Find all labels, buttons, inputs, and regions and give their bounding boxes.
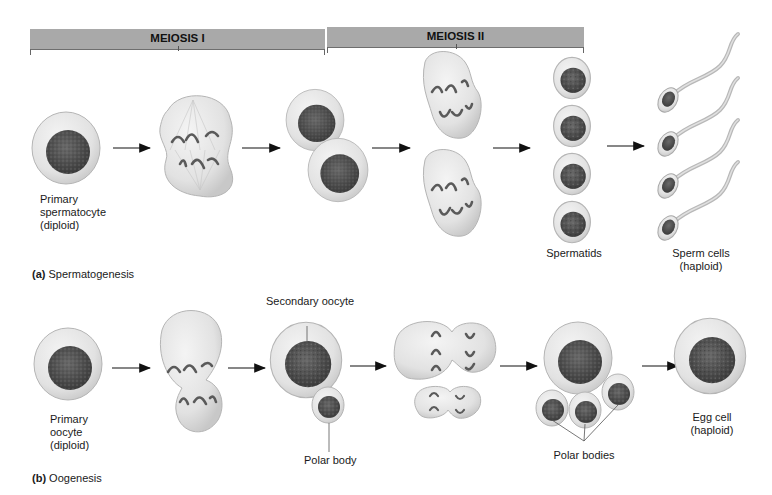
egg-with-polar-bodies-cell bbox=[544, 322, 612, 394]
spermatogenesis-caption: (a) Spermatogenesis bbox=[32, 268, 134, 280]
meiosis-ii-dividing-cell-sperm-bottom bbox=[423, 150, 481, 237]
secondary-spermatocyte-cell bbox=[308, 138, 368, 201]
spermatid-cell bbox=[554, 153, 591, 194]
egg-cell-label: Egg cell (haploid) bbox=[682, 411, 742, 437]
sperm-cell bbox=[654, 162, 738, 244]
polar-body-cell bbox=[569, 392, 601, 428]
spermatids-label: Spermatids bbox=[540, 247, 608, 260]
primary-oocyte-cell bbox=[34, 328, 102, 400]
label-line: Sperm cells bbox=[666, 247, 736, 260]
oogenesis-caption: (b) Oogenesis bbox=[32, 472, 102, 484]
primary-oocyte-label: Primary oocyte (diploid) bbox=[50, 413, 89, 452]
polar-bodies-label: Polar bodies bbox=[548, 449, 620, 462]
secondary-oocyte-label: Secondary oocyte bbox=[266, 295, 354, 308]
egg-cell bbox=[674, 318, 745, 394]
label-line: (diploid) bbox=[40, 219, 106, 232]
primary-spermatocyte-cell bbox=[32, 112, 100, 184]
polar-body-cell bbox=[536, 390, 568, 426]
caption-letter: (a) bbox=[32, 268, 45, 280]
spermatid-cell bbox=[554, 105, 591, 146]
meiosis-ii-dividing-cell-egg bbox=[394, 322, 496, 419]
meiosis-i-dividing-cell-egg bbox=[160, 311, 222, 432]
label-line: Egg cell bbox=[682, 411, 742, 424]
label-line: Polar bodies bbox=[548, 449, 620, 462]
polar-body-cell bbox=[602, 374, 634, 410]
meiosis-illustration bbox=[0, 0, 772, 495]
label-line: Spermatids bbox=[540, 247, 608, 260]
label-line: Primary bbox=[40, 193, 106, 206]
meiosis-ii-dividing-cell-sperm-top bbox=[423, 52, 481, 139]
spermatid-cell bbox=[554, 57, 591, 98]
polar-body-label: Polar body bbox=[304, 454, 357, 467]
label-line: Secondary oocyte bbox=[266, 295, 354, 308]
spermatid-cell bbox=[554, 201, 591, 242]
caption-letter: (b) bbox=[32, 472, 46, 484]
label-line: oocyte bbox=[50, 426, 89, 439]
polar-body-cell bbox=[312, 387, 344, 423]
sperm-cells-label: Sperm cells (haploid) bbox=[666, 247, 736, 273]
label-line: spermatocyte bbox=[40, 206, 106, 219]
secondary-oocyte-cell bbox=[270, 322, 341, 398]
meiosis-i-dividing-cell-sperm bbox=[160, 96, 233, 197]
caption-text: Oogenesis bbox=[49, 472, 102, 484]
primary-spermatocyte-label: Primary spermatocyte (diploid) bbox=[40, 193, 106, 232]
label-line: (haploid) bbox=[666, 260, 736, 273]
caption-text: Spermatogenesis bbox=[49, 268, 135, 280]
label-line: Polar body bbox=[304, 454, 357, 467]
label-line: (diploid) bbox=[50, 439, 89, 452]
label-line: Primary bbox=[50, 413, 89, 426]
label-line: (haploid) bbox=[682, 424, 742, 437]
